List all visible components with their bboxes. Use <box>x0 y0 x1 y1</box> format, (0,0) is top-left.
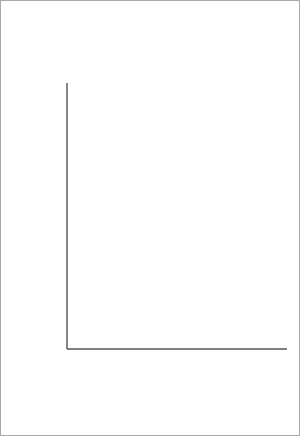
figure-frame <box>0 0 300 436</box>
axes <box>67 83 287 349</box>
plot-area <box>1 1 300 436</box>
